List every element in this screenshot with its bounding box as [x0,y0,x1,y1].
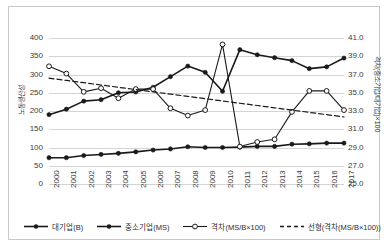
chart-legend: 대기업(B)중소기업(MS)격차(MS/B×100)선형(격차(MS/B×100… [23,217,381,235]
x-axis-tick-label: 2004 [122,170,130,188]
data-point [82,153,86,157]
data-point [255,53,259,57]
data-point [220,89,224,93]
data-point [134,150,138,154]
data-point [99,152,103,156]
data-point [290,59,294,63]
data-point [255,140,260,145]
legend-swatch-1 [23,222,49,231]
y-axis-left-title: 노동생산성 [18,85,25,115]
data-point [168,147,172,151]
series-1 [47,48,346,117]
x-axis-tick-label: 2001 [70,170,78,188]
series-layer [49,38,344,184]
data-point [325,141,329,145]
data-point [116,91,120,95]
data-point [342,108,347,113]
legend-item[interactable]: 중소기업(MS) [96,221,169,232]
x-axis-tick-label: 2016 [331,170,339,188]
data-point [133,87,138,92]
y-axis-right-title: 격차(중소기업/대기업)×100 [374,56,381,132]
x-axis-tick-label: 2017 [348,170,356,188]
data-point [64,71,69,76]
x-axis-tick-label: 2006 [157,170,165,188]
legend-item[interactable]: 선형(격차(MS/B×100)) [279,221,381,232]
x-axis-tick-label: 2000 [53,170,61,188]
legend-swatch-2 [96,222,122,231]
data-point [116,151,120,155]
legend-swatch-3 [182,222,208,231]
x-axis-tick-label: 2007 [174,170,182,188]
data-point [64,156,68,160]
data-point [203,108,208,113]
data-point [220,42,225,47]
series-line [49,50,344,115]
data-point [220,145,224,149]
x-axis-tick-label: 2015 [313,170,321,188]
y-axis-right-tick-label: 27.0 [348,162,380,170]
legend-label: 대기업(B) [52,221,83,232]
data-point [186,145,190,149]
y-axis-left-tick-label: 100 [9,144,43,152]
x-axis-tick-label: 2014 [296,170,304,188]
data-point [272,144,276,148]
y-axis-left-tick-label: 300 [9,71,43,79]
series-3 [47,42,347,149]
legend-label: 격차(MS/B×100) [211,221,265,232]
legend-label: 선형(격차(MS/B×100)) [308,221,381,232]
x-axis-tick-label: 2009 [209,170,217,188]
y-axis-left-tick-label: 400 [9,34,43,42]
x-axis-tick-label: 2012 [261,170,269,188]
y-axis-left-tick-label: 150 [9,125,43,133]
y-axis-left-tick-label: 200 [9,107,43,115]
data-point [82,99,86,103]
series-line [49,143,344,158]
plot-area [49,38,344,184]
y-axis-left-tick-label: 50 [9,162,43,170]
y-axis-right-tick-label: 41.0 [348,34,380,42]
data-point [324,89,329,94]
data-point [342,56,346,60]
data-point [238,48,242,52]
chart-container: 050100150200250300350400 25.027.029.031.… [0,0,389,250]
x-axis-tick-label: 2011 [244,171,252,188]
data-point [307,89,312,94]
data-point [64,107,68,111]
data-point [325,65,329,69]
legend-swatch-4 [279,222,305,231]
data-point [47,156,51,160]
data-point [116,96,121,101]
y-axis-right-tick-label: 29.0 [348,144,380,152]
x-axis-tick-label: 2008 [192,170,200,188]
chart-frame: 050100150200250300350400 25.027.029.031.… [8,6,380,240]
y-axis-left-tick-label: 350 [9,52,43,60]
data-point [186,64,190,68]
data-point [168,106,173,111]
data-point [342,141,346,145]
data-point [203,70,207,74]
data-point [237,144,242,149]
x-axis-tick-label: 2010 [227,170,235,188]
data-point [151,148,155,152]
data-point [307,142,311,146]
data-point [47,64,52,69]
data-point [272,56,276,60]
data-point [290,142,294,146]
legend-item[interactable]: 대기업(B) [23,221,83,232]
data-point [47,113,51,117]
legend-label: 중소기업(MS) [125,221,169,232]
data-point [99,98,103,102]
data-point [255,144,259,148]
series-line [49,44,344,146]
series-line [49,78,344,117]
data-point [81,89,86,94]
x-axis-tick-label: 2013 [279,170,287,188]
data-point [203,145,207,149]
legend-item[interactable]: 격차(MS/B×100) [182,221,265,232]
data-point [168,75,172,79]
y-axis-left-tick-label: 0 [9,180,43,188]
data-point [307,67,311,71]
series-4 [49,78,344,117]
y-axis-left-tick-label: 250 [9,89,43,97]
series-2 [47,141,346,160]
